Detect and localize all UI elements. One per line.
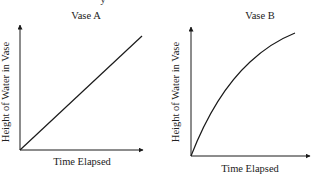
panel-title: Vase B bbox=[245, 10, 274, 21]
water-height-curve bbox=[191, 33, 295, 156]
panel-vase-a: Vase A Time Elapsed Height of Water in V… bbox=[0, 10, 143, 167]
panel-vase-b: Vase B Time Elapsed Height of Water in V… bbox=[170, 10, 310, 174]
x-axis-label: Time Elapsed bbox=[221, 163, 279, 174]
y-axis-label: Height of Water in Vase bbox=[170, 42, 181, 143]
vase-graphs-figure: y Vase A Time Elapsed Height of Water in… bbox=[0, 0, 311, 180]
y-axis-label: Height of Water in Vase bbox=[0, 42, 11, 143]
panel-title: Vase A bbox=[71, 10, 101, 21]
water-height-line bbox=[20, 36, 142, 150]
x-axis-label: Time Elapsed bbox=[53, 156, 111, 167]
clipped-top-text: y bbox=[101, 0, 106, 5]
